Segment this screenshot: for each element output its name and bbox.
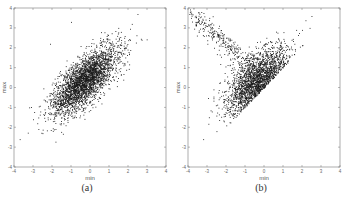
y-tick-label: 3 [9,25,12,30]
y-tick-label: 3 [183,25,186,30]
x-tick-label: 4 [339,169,342,174]
x-tick-label: 0 [263,169,266,174]
y-tick-label: -2 [8,125,12,130]
plot-frame [14,8,166,167]
y-tick-label: -4 [182,165,186,170]
scatter-plot-b: -4-3-2-101234-4-3-2-101234minmax [174,0,348,182]
x-tick-label: -2 [224,169,228,174]
x-tick-label: 3 [320,169,323,174]
y-axis-label: max [175,82,181,93]
caption-a: (a) [0,182,174,193]
scatter-panel-a: -4-3-2-101234-4-3-2-101234minmax (a) [0,0,174,203]
y-tick-label: 2 [183,45,186,50]
x-tick-label: 1 [282,169,285,174]
x-tick-label: -1 [69,169,73,174]
x-tick-label: -3 [31,169,35,174]
x-axis-label: min [85,175,95,181]
x-tick-label: 2 [127,169,130,174]
scatter-panel-b: -4-3-2-101234-4-3-2-101234minmax (b) [174,0,348,203]
data-points [20,14,148,143]
y-tick-label: 4 [9,6,12,11]
y-tick-label: 2 [9,45,12,50]
x-tick-label: -4 [12,169,16,174]
x-tick-label: -1 [243,169,247,174]
x-tick-label: 1 [108,169,111,174]
y-tick-label: 1 [9,65,12,70]
y-tick-label: -2 [182,125,186,130]
y-tick-label: 4 [183,6,186,11]
y-tick-label: -1 [8,105,12,110]
y-tick-label: 1 [183,65,186,70]
y-axis-label: max [1,82,7,93]
y-tick-label: 0 [9,85,12,90]
x-tick-label: 2 [301,169,304,174]
x-tick-label: 0 [89,169,92,174]
caption-b: (b) [174,182,348,193]
data-points [189,8,312,140]
x-tick-label: 3 [146,169,149,174]
x-axis-label: min [259,175,269,181]
y-tick-label: -3 [182,145,186,150]
y-tick-label: -1 [182,105,186,110]
x-tick-label: -4 [186,169,190,174]
x-tick-label: -3 [205,169,209,174]
x-tick-label: 4 [165,169,168,174]
y-tick-label: -3 [8,145,12,150]
y-tick-label: 0 [183,85,186,90]
y-tick-label: -4 [8,165,12,170]
scatter-plot-a: -4-3-2-101234-4-3-2-101234minmax [0,0,174,182]
x-tick-label: -2 [50,169,54,174]
